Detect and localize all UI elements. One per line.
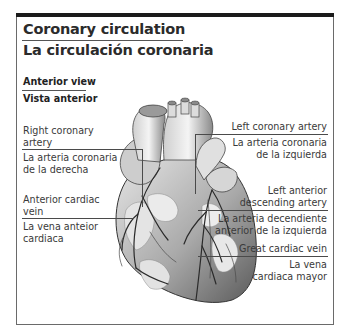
label-left-anterior-descending-artery-es: La arteria decendiente anterior de la iz… bbox=[215, 213, 327, 236]
label-line: Anterior cardiac bbox=[23, 194, 100, 206]
label-line: Left anterior bbox=[240, 185, 327, 197]
label-anterior-cardiac-vein-es: La vena anteior cardiaca bbox=[23, 221, 98, 244]
label-line: cardiaca bbox=[23, 233, 98, 245]
leader-line-great-cardiac-vein bbox=[198, 256, 328, 257]
label-line: La vena anteior bbox=[23, 221, 98, 233]
leader-line-anterior-cardiac-vein bbox=[22, 218, 134, 219]
label-line: de la derecha bbox=[23, 164, 118, 176]
label-line: cardiaca mayor bbox=[253, 271, 327, 283]
label-line: Great cardiac vein bbox=[239, 243, 327, 255]
leader-line-right-coronary-artery-vertical bbox=[142, 149, 143, 207]
label-line: anterior de la izquierda bbox=[215, 225, 327, 237]
label-right-coronary-artery-en: Right coronary artery bbox=[23, 125, 94, 148]
label-line: La arteria decendiente bbox=[215, 213, 327, 225]
label-line: de la izquierda bbox=[233, 149, 328, 161]
label-line: Right coronary bbox=[23, 125, 94, 137]
label-left-coronary-artery-es: La arteria coronaria de la izquierda bbox=[233, 137, 328, 160]
label-anterior-cardiac-vein-en: Anterior cardiac vein bbox=[23, 194, 100, 217]
leader-line-right-coronary-artery bbox=[22, 149, 142, 150]
label-line: vein bbox=[23, 206, 100, 218]
label-line: La arteria coronaria bbox=[23, 152, 118, 164]
label-left-coronary-artery-en: Left coronary artery bbox=[231, 121, 327, 133]
label-great-cardiac-vein-en: Great cardiac vein bbox=[239, 243, 327, 255]
label-line: artery bbox=[23, 137, 94, 149]
leader-line-left-anterior-descending-artery bbox=[198, 210, 328, 211]
label-great-cardiac-vein-es: La vena cardiaca mayor bbox=[253, 259, 327, 282]
label-line: Left coronary artery bbox=[231, 121, 327, 133]
leader-line-left-coronary-artery-vertical bbox=[195, 134, 196, 194]
label-line: La arteria coronaria bbox=[233, 137, 328, 149]
leader-line-left-coronary-artery bbox=[195, 134, 328, 135]
label-right-coronary-artery-es: La arteria coronaria de la derecha bbox=[23, 152, 118, 175]
label-line: descending artery bbox=[240, 197, 327, 209]
label-left-anterior-descending-artery-en: Left anterior descending artery bbox=[240, 185, 327, 208]
label-line: La vena bbox=[253, 259, 327, 271]
